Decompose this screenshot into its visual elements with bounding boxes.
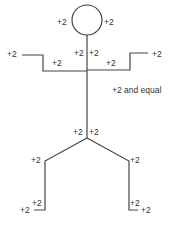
- neck-right-label: +2: [89, 48, 99, 58]
- torso-note-label: +2 and equal: [112, 85, 162, 95]
- left-upper-arm-label: +2: [52, 58, 62, 68]
- left-ankle-label: +2: [32, 198, 42, 208]
- right-knee-label: +2: [130, 155, 140, 165]
- right-upper-arm-label: +2: [106, 58, 116, 68]
- left-hand-label: +2: [7, 49, 17, 59]
- left-leg-line: [34, 138, 87, 210]
- stick-figure-diagram: +2 +2 +2 +2 +2 +2 +2 +2 +2 and equal +2 …: [0, 0, 175, 228]
- right-toe-label: +2: [141, 205, 151, 215]
- left-toe-label: +2: [20, 205, 30, 215]
- hip-right-label: +2: [89, 127, 99, 137]
- head-right-label: +2: [104, 17, 114, 27]
- head-circle: [72, 5, 102, 35]
- left-knee-label: +2: [31, 155, 41, 165]
- neck-left-label: +2: [74, 48, 84, 58]
- right-hand-label: +2: [152, 49, 162, 59]
- right-ankle-label: +2: [130, 198, 140, 208]
- head-left-label: +2: [57, 17, 67, 27]
- hip-left-label: +2: [73, 127, 83, 137]
